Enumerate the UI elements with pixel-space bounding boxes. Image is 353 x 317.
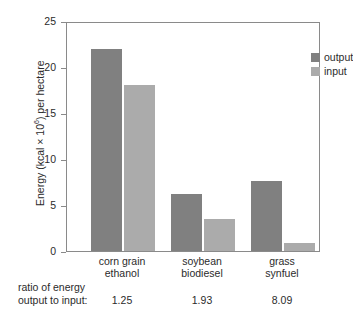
- legend-item-input: input: [311, 65, 353, 77]
- y-axis-tick-label: 15: [26, 107, 56, 119]
- x-axis-label-grass-synfuel: grasssynfuel: [237, 255, 327, 279]
- y-axis-tick-label: 10: [26, 153, 56, 165]
- x-axis-label-line: corn grain: [77, 255, 167, 267]
- plot-area: outputinput: [66, 22, 320, 252]
- legend-swatch-icon: [311, 53, 320, 62]
- x-axis-label-line: ethanol: [77, 267, 167, 279]
- ratio-value-grass-synfuel: 8.09: [257, 294, 307, 307]
- y-axis-tick-mark: [61, 252, 66, 253]
- bar-output-grass-synfuel: [251, 181, 282, 251]
- ratio-value-corn-grain-ethanol: 1.25: [97, 294, 147, 307]
- bar-input-corn-grain-ethanol: [124, 85, 155, 251]
- y-axis-title-exponent: 6: [33, 120, 40, 124]
- x-axis-label-line: biodiesel: [157, 267, 247, 279]
- ratio-caption-line-1: ratio of energy: [18, 281, 85, 294]
- ratio-caption-line-2: output to input:: [18, 294, 87, 307]
- legend-item-output: output: [311, 51, 353, 63]
- y-axis-tick-label: 20: [26, 61, 56, 73]
- x-axis-label-corn-grain-ethanol: corn grainethanol: [77, 255, 167, 279]
- bar-input-soybean-biodiesel: [204, 219, 235, 251]
- legend-swatch-icon: [311, 67, 320, 76]
- x-axis-label-soybean-biodiesel: soybeanbiodiesel: [157, 255, 247, 279]
- chart-legend: outputinput: [311, 51, 353, 79]
- y-axis-tick-label: 0: [26, 245, 56, 257]
- x-axis-label-line: synfuel: [237, 267, 327, 279]
- x-axis-label-line: grass: [237, 255, 327, 267]
- y-axis-tick-label: 5: [26, 199, 56, 211]
- bar-output-soybean-biodiesel: [171, 194, 202, 251]
- y-axis-tick-label: 25: [26, 15, 56, 27]
- legend-item-label: output: [324, 51, 353, 63]
- ratio-value-soybean-biodiesel: 1.93: [177, 294, 227, 307]
- bar-input-grass-synfuel: [284, 243, 315, 251]
- x-axis-label-line: soybean: [157, 255, 247, 267]
- legend-item-label: input: [324, 65, 347, 77]
- bar-output-corn-grain-ethanol: [91, 49, 122, 251]
